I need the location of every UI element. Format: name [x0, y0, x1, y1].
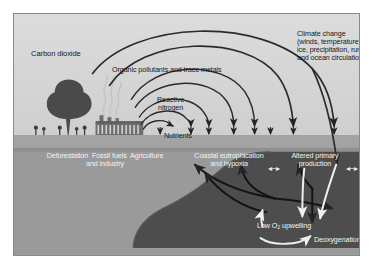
label-low-o2-upwelling-suffix: upwelling: [280, 221, 311, 230]
label-nutrients: Nutrients: [164, 132, 192, 140]
label-reactive-nitrogen: Reactive nitrogen: [157, 96, 184, 112]
figure-root: Carbon dioxide Organic pollutants and tr…: [0, 0, 380, 275]
label-organic-pollutants: Organic pollutants and trace metals: [112, 66, 222, 74]
diagram-frame: Carbon dioxide Organic pollutants and tr…: [13, 13, 360, 256]
label-low-o2-upwelling-prefix: Low O: [257, 221, 277, 230]
label-coastal-eutrophication-hypoxia: Coastal eutrophication and hypoxia: [184, 152, 274, 168]
label-low-o2-upwelling: Low O2 upwelling: [257, 222, 311, 231]
label-carbon-dioxide: Carbon dioxide: [31, 50, 81, 59]
label-deoxygenation: Deoxygenation: [314, 236, 360, 244]
label-altered-primary-production: Altered primary production: [276, 152, 354, 168]
connector-arrow-coastal-to-production: ◂─▸: [268, 164, 279, 173]
label-deforestation-fossil-fuels-agriculture: Deforestation Fossil fuels Agriculture a…: [26, 152, 184, 168]
connector-arrow-production-to-uptake: ◂─▸: [346, 164, 357, 173]
label-climate-change: Climate change (winds, temperature, sea …: [297, 30, 360, 62]
ocean-floor-trim: [14, 248, 359, 255]
